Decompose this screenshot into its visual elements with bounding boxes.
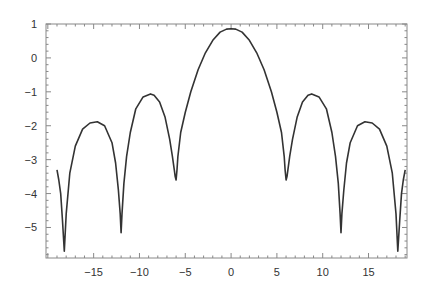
line-chart: −15−10−5051015 10−1−2−3−4−5 xyxy=(0,0,424,288)
x-tick-label: 15 xyxy=(362,266,374,278)
y-axis-ticks xyxy=(46,24,407,255)
y-tick-label: −5 xyxy=(24,221,37,233)
x-tick-label: −10 xyxy=(130,266,149,278)
y-tick-label: −3 xyxy=(24,154,37,166)
x-tick-label: −15 xyxy=(84,266,103,278)
data-curve xyxy=(57,29,405,252)
x-tick-label: −5 xyxy=(179,266,192,278)
y-axis-tick-labels: 10−1−2−3−4−5 xyxy=(24,18,37,233)
y-tick-label: −1 xyxy=(24,86,37,98)
y-tick-label: −2 xyxy=(24,120,37,132)
y-tick-label: −4 xyxy=(24,188,37,200)
x-axis-tick-labels: −15−10−5051015 xyxy=(84,266,374,278)
y-tick-label: 0 xyxy=(31,52,37,64)
x-tick-label: 0 xyxy=(228,266,234,278)
x-tick-label: 10 xyxy=(317,266,329,278)
plot-frame xyxy=(46,24,407,258)
y-tick-label: 1 xyxy=(31,18,37,30)
x-tick-label: 5 xyxy=(274,266,280,278)
